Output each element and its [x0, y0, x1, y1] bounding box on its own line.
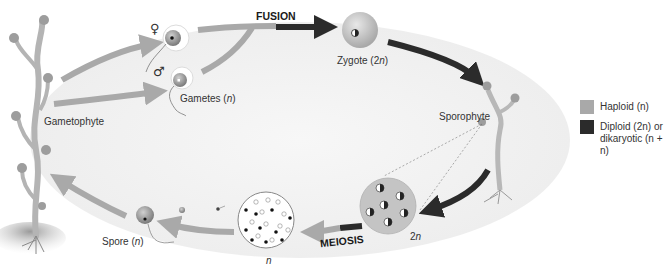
fusion-label: FUSION — [256, 10, 296, 22]
spore-label: Spore (n) — [102, 236, 144, 247]
gametophyte-label: Gametophyte — [44, 116, 104, 127]
life-cycle-diagram — [0, 0, 668, 272]
zygote-label-text: Zygote (2 — [337, 55, 379, 66]
zygote-label: Zygote (2n) — [337, 55, 388, 66]
legend-label-diploid-line2: dikaryotic (n + n) — [600, 133, 668, 157]
legend-item-diploid: Diploid (2n) or dikaryotic (n + n) — [580, 120, 668, 157]
legend: Haploid (n) Diploid (2n) or dikaryotic (… — [580, 100, 668, 163]
legend-label-diploid-line1: Diploid (2n) or — [600, 121, 668, 133]
spore-label-close: ) — [140, 236, 143, 247]
zygote — [342, 12, 378, 48]
released-spore-small — [216, 207, 220, 211]
diploid-sporangium — [360, 178, 416, 234]
spore-label-text: Spore ( — [102, 236, 135, 247]
gametes-label: Gametes (n) — [180, 93, 236, 104]
haploid-spore-mass — [238, 192, 294, 248]
gametes-label-close: ) — [232, 93, 235, 104]
legend-label-diploid: Diploid (2n) or dikaryotic (n + n) — [600, 121, 668, 157]
diploid-cell-ploidy: n — [416, 231, 422, 242]
gametes-label-text: Gametes ( — [180, 93, 227, 104]
legend-item-haploid: Haploid (n) — [580, 100, 668, 114]
haploid-cells-label: n — [266, 255, 272, 266]
diploid-cell-label: 2n — [410, 231, 421, 242]
legend-label-haploid: Haploid (n) — [600, 101, 649, 113]
male-symbol: ♂ — [153, 64, 165, 79]
zygote-label-close: ) — [385, 55, 388, 66]
haploid-swatch — [580, 100, 594, 114]
meiosis-arrow-diploid-segment — [340, 226, 362, 228]
female-symbol: ♀ — [150, 21, 160, 36]
haploid-cells-ploidy: n — [266, 255, 272, 266]
diploid-swatch — [580, 120, 594, 134]
released-spore — [179, 207, 185, 213]
sporophyte-label: Sporophyte — [439, 111, 490, 122]
